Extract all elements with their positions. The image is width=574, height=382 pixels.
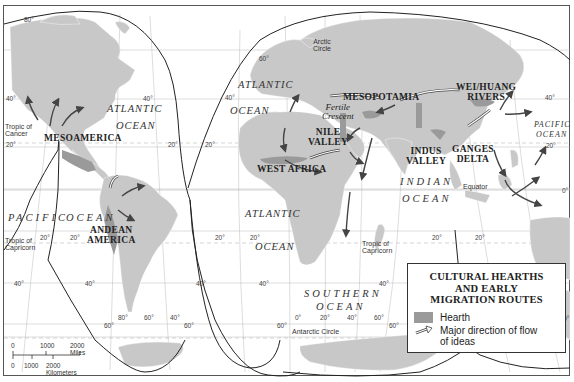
ocean-pacific-west: PACIFIC	[8, 213, 68, 224]
lon-0-label: 0°	[295, 315, 301, 322]
lat-20-label: 20°	[215, 235, 225, 242]
lat-40-label: 40°	[143, 96, 153, 103]
label-fertile-crescent: FertileCrescent	[322, 103, 354, 121]
lon-60-label: 60°	[374, 315, 384, 322]
label-wei-huang: WEI/HUANGRIVERS	[456, 83, 516, 102]
lon-40-label: 40°	[347, 315, 357, 322]
ocean-atlantic-south-2: OCEAN	[255, 242, 294, 253]
label-mesoamerica: MESOAMERICA	[44, 134, 122, 144]
legend-hearth-row: Hearth	[414, 312, 565, 323]
lat-20-label: 20°	[432, 235, 442, 242]
lat-20-label: 20°	[205, 142, 215, 149]
lat-40-label: 40°	[6, 96, 16, 103]
ocean-indian: INDIAN	[400, 177, 453, 188]
lat-60-label: 60°	[184, 323, 194, 330]
equator-label: Equator	[463, 183, 488, 190]
hearth-swatch	[414, 312, 433, 323]
legend-flow-row: Major direction of flow of ideas	[414, 325, 565, 347]
lat-60-label: 60°	[389, 323, 399, 330]
lat-40-label: 40°	[85, 281, 95, 288]
lon-20-label: 20°	[320, 315, 330, 322]
label-nile-valley: NILEVALLEY	[308, 128, 348, 147]
antarctic-circle-label: Antarctic Circle	[292, 328, 339, 335]
label-ganges-delta: GANGESDELTA	[452, 145, 494, 164]
lat-40-label: 40°	[379, 281, 389, 288]
lat-0-label: 0°	[562, 188, 568, 195]
lat-40-label: 40°	[225, 95, 235, 102]
lat-40-label: 40°	[545, 95, 555, 102]
lat-20-label: 20°	[475, 235, 485, 242]
ocean-pacific-east: PACIFIC	[534, 121, 571, 129]
ocean-southern: SOUTHERN	[304, 289, 382, 300]
arctic-circle-label: ArcticCircle	[313, 38, 331, 52]
ocean-atlantic-south: ATLANTIC	[245, 209, 300, 220]
lon-40-label: 40°	[170, 315, 180, 322]
lat-60-label: 60°	[259, 56, 269, 63]
ocean-atlantic-north: ATLANTIC	[238, 80, 293, 91]
label-indus-valley: INDUSVALLEY	[406, 147, 446, 166]
ocean-pacific-east-2: OCEAN	[536, 131, 567, 139]
legend-title: CULTURAL HEARTHS AND EARLY MIGRATION ROU…	[408, 271, 565, 306]
lat-60-label: 60°	[104, 323, 114, 330]
lon-60-label: 60°	[144, 315, 154, 322]
lat-80-label: 80°	[24, 17, 34, 24]
tropic-capricorn-label-east: Tropic ofCapricorn	[362, 240, 392, 254]
lat-20-label: 20°	[546, 143, 556, 150]
lat-60-label: 60°	[277, 323, 287, 330]
label-andean: ANDEANAMERICA	[87, 226, 136, 245]
label-west-africa: WEST AFRICA	[257, 165, 326, 175]
lat-20-label: 20°	[40, 235, 50, 242]
lon-80-label: 80°	[118, 315, 128, 322]
hearth-indus	[416, 103, 422, 128]
tropic-capricorn-label-west: Tropic ofCapricorn	[5, 237, 35, 251]
ocean-southern-2: OCEAN	[316, 302, 365, 313]
lat-20-label: 20°	[168, 142, 178, 149]
ocean-atlantic-west-2: OCEAN	[116, 121, 155, 132]
flow-arrow-icon	[414, 325, 433, 336]
ocean-atlantic-west: ATLANTIC	[107, 104, 162, 115]
map-legend: CULTURAL HEARTHS AND EARLY MIGRATION ROU…	[407, 263, 566, 353]
ocean-atlantic-north-2: OCEAN	[230, 106, 269, 117]
lat-40-label: 40°	[14, 281, 24, 288]
ocean-pacific-west-2: OCEAN	[66, 213, 115, 224]
lat-20-label: 20°	[6, 142, 16, 149]
label-mesopotamia: MESOPOTAMIA	[343, 93, 419, 103]
tropic-cancer-label: Tropic ofCancer	[5, 123, 32, 137]
lat-40-label: 40°	[196, 281, 206, 288]
lat-20-label: 20°	[70, 235, 80, 242]
ocean-indian-2: OCEAN	[402, 194, 451, 205]
lat-40-label: 40°	[259, 281, 269, 288]
